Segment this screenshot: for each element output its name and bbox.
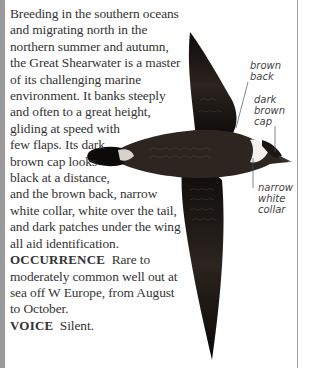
label-line: white bbox=[258, 193, 293, 204]
label-brown-back: brown back bbox=[250, 60, 281, 82]
voice-line: VOICE Silent. bbox=[10, 318, 290, 334]
species-description: Breeding in the southern oceans and migr… bbox=[10, 6, 290, 334]
label-line: back bbox=[250, 71, 281, 82]
description-line: and often to a great height, bbox=[10, 104, 290, 120]
label-line: dark bbox=[254, 94, 285, 105]
occurrence-text: Rare to bbox=[112, 252, 150, 267]
occurrence-line: moderately common well out at bbox=[10, 269, 290, 285]
description-line: brown cap looks bbox=[10, 154, 290, 170]
label-line: narrow bbox=[258, 182, 293, 193]
description-line: northern summer and autumn, bbox=[10, 39, 290, 55]
description-line: few flaps. Its dark bbox=[10, 137, 290, 153]
label-line: collar bbox=[258, 204, 293, 215]
label-narrow-white-collar: narrow white collar bbox=[258, 182, 293, 215]
description-line: environment. It banks steeply bbox=[10, 88, 290, 104]
occurrence-line: OCCURRENCE Rare to bbox=[10, 252, 290, 268]
label-line: brown bbox=[250, 60, 281, 71]
description-line: white collar, white over the tail, bbox=[10, 203, 290, 219]
description-line: Breeding in the southern oceans bbox=[10, 6, 290, 22]
occurrence-heading: OCCURRENCE bbox=[10, 252, 105, 267]
description-line: and dark patches under the wing bbox=[10, 219, 290, 235]
label-line: brown bbox=[254, 105, 285, 116]
description-line: black at a distance, bbox=[10, 170, 290, 186]
voice-text: Silent. bbox=[60, 318, 94, 333]
description-line: and the brown back, narrow bbox=[10, 186, 290, 202]
label-dark-brown-cap: dark brown cap bbox=[254, 94, 285, 127]
occurrence-line: to October. bbox=[10, 301, 290, 317]
voice-heading: VOICE bbox=[10, 318, 53, 333]
description-line: all aid identification. bbox=[10, 236, 290, 252]
label-line: cap bbox=[254, 116, 285, 127]
occurrence-line: sea off W Europe, from August bbox=[10, 285, 290, 301]
description-line: and migrating north in the bbox=[10, 22, 290, 38]
description-line: gliding at speed with bbox=[10, 121, 290, 137]
description-line: of its challenging marine bbox=[10, 72, 290, 88]
description-line: the Great Shearwater is a master bbox=[10, 55, 290, 71]
